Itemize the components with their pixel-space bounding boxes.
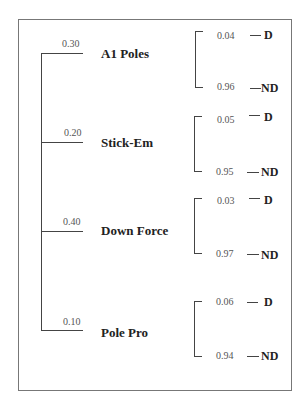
nd-prob-stick-em: 0.95 — [216, 166, 234, 177]
branch-line-pole-pro — [41, 330, 83, 331]
nd-prob-pole-pro: 0.94 — [216, 350, 234, 361]
sub-bracket-top-stick-em — [194, 116, 202, 117]
sub-bracket-stick-em — [194, 116, 195, 172]
sub-bracket-a1-poles — [195, 31, 196, 88]
sub-bracket-top-pole-pro — [194, 301, 202, 302]
sub-bracket-top-down-force — [194, 198, 202, 199]
d-tick-a1-poles — [250, 35, 261, 36]
outcome-nd-stick-em: ND — [261, 165, 278, 180]
sub-bracket-bottom-down-force — [194, 253, 202, 254]
branch-prob-a1-poles: 0.30 — [62, 38, 80, 49]
branch-line-a1-poles — [41, 53, 83, 54]
branch-label-stick-em: Stick-Em — [101, 135, 153, 151]
d-tick-pole-pro — [247, 302, 258, 303]
nd-prob-down-force: 0.97 — [216, 248, 234, 259]
d-tick-down-force — [249, 198, 260, 199]
branch-line-stick-em — [41, 142, 83, 143]
sub-bracket-bottom-pole-pro — [194, 356, 202, 357]
diagram-frame — [18, 19, 292, 391]
nd-tick-down-force — [247, 254, 259, 255]
d-prob-pole-pro: 0.06 — [216, 296, 234, 307]
nd-tick-stick-em — [247, 172, 259, 173]
sub-bracket-top-a1-poles — [195, 31, 203, 32]
branch-label-down-force: Down Force — [101, 223, 168, 239]
nd-tick-a1-poles — [250, 88, 261, 89]
d-prob-stick-em: 0.05 — [217, 114, 235, 125]
d-prob-a1-poles: 0.04 — [217, 30, 235, 41]
sub-bracket-down-force — [194, 198, 195, 254]
d-prob-down-force: 0.03 — [217, 195, 235, 206]
branch-label-pole-pro: Pole Pro — [101, 325, 148, 341]
outcome-nd-pole-pro: ND — [261, 349, 278, 364]
root-trunk — [41, 53, 42, 330]
branch-prob-down-force: 0.40 — [63, 216, 81, 227]
nd-prob-a1-poles: 0.96 — [217, 81, 235, 92]
branch-prob-stick-em: 0.20 — [64, 127, 82, 138]
sub-bracket-bottom-a1-poles — [195, 87, 203, 88]
branch-label-a1-poles: A1 Poles — [101, 46, 149, 62]
outcome-d-pole-pro: D — [264, 295, 273, 310]
nd-tick-pole-pro — [247, 356, 259, 357]
branch-prob-pole-pro: 0.10 — [63, 316, 81, 327]
sub-bracket-bottom-stick-em — [194, 171, 202, 172]
outcome-d-down-force: D — [264, 193, 273, 208]
outcome-d-stick-em: D — [264, 110, 273, 125]
outcome-d-a1-poles: D — [264, 28, 273, 43]
outcome-nd-a1-poles: ND — [261, 81, 278, 96]
branch-line-down-force — [41, 231, 83, 232]
outcome-nd-down-force: ND — [261, 248, 278, 263]
sub-bracket-pole-pro — [194, 301, 195, 357]
d-tick-stick-em — [249, 115, 260, 116]
